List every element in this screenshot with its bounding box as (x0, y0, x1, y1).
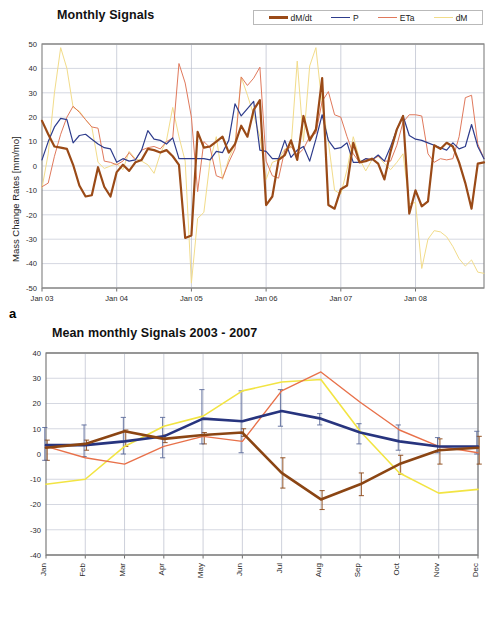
legend-label-p: P (353, 13, 359, 23)
y-tick-label: 20 (33, 399, 41, 408)
x-tick-label: Jan 06 (255, 294, 278, 303)
x-tick-label: Nov (432, 563, 441, 577)
y-tick-label: 50 (29, 40, 37, 49)
series-line-eta (42, 64, 484, 192)
x-tick-label: Jan 03 (31, 294, 54, 303)
panel-a-y-axis-label: Mass Change Rates [mm/mo] (10, 136, 21, 262)
x-tick-label: Jun (235, 563, 244, 576)
y-tick-label: 40 (29, 64, 37, 73)
x-tick-label: Sep (353, 562, 362, 577)
y-tick-label: -20 (26, 211, 37, 220)
legend-label-eta: ETa (400, 13, 415, 23)
y-tick-label: 0 (33, 162, 37, 171)
x-tick-label: Jul (275, 563, 284, 573)
y-tick-label: -40 (30, 551, 41, 560)
legend-label-dmdt: dM/dt (291, 13, 312, 23)
x-tick-label: Jan 04 (105, 294, 128, 303)
y-tick-label: 0 (37, 450, 41, 459)
legend-item-p: P (321, 13, 368, 23)
y-tick-label: 40 (33, 349, 41, 358)
y-tick-label: -30 (26, 235, 37, 244)
x-tick-label: Jan (39, 563, 48, 576)
x-tick-label: Oct (392, 562, 401, 575)
y-tick-label: 10 (29, 137, 37, 146)
y-tick-label: 30 (33, 374, 41, 383)
legend-swatch-dmdt (269, 16, 288, 19)
figure-container: Monthly Signals dM/dt P ETa dM Mass Chan… (0, 0, 490, 626)
panel-a-letter: a (9, 306, 16, 321)
panel-a-legend: dM/dt P ETa dM (253, 10, 483, 25)
x-tick-label: Mar (118, 563, 127, 577)
panel-a-monthly-signals: Monthly Signals dM/dt P ETa dM Mass Chan… (0, 0, 490, 320)
x-tick-label: Aug (314, 563, 323, 577)
legend-item-eta: ETa (368, 13, 424, 23)
x-tick-label: Jan 05 (180, 294, 203, 303)
y-tick-label: -40 (26, 259, 37, 268)
panel-a-title: Monthly Signals (57, 8, 154, 22)
panel-b-title: Mean monthly Signals 2003 - 2007 (52, 326, 257, 340)
x-tick-label: Jan 07 (329, 294, 352, 303)
x-tick-label: Dec (471, 563, 480, 577)
x-tick-label: Apr (157, 563, 166, 576)
y-tick-label: 30 (29, 89, 37, 98)
y-tick-label: -10 (26, 186, 37, 195)
panel-b-plot: -40-30-20-10010203040JanFebMarAprMayJunJ… (0, 320, 490, 626)
x-tick-label: Feb (78, 562, 87, 576)
legend-swatch-eta (378, 17, 397, 18)
y-tick-label: 20 (29, 113, 37, 122)
y-tick-label: -50 (26, 284, 37, 293)
y-tick-label: -30 (30, 526, 41, 535)
y-tick-label: 10 (33, 425, 41, 434)
legend-swatch-p (331, 17, 350, 18)
y-tick-label: -20 (30, 500, 41, 509)
legend-item-dmdt: dM/dt (259, 13, 321, 23)
legend-swatch-dm (434, 17, 453, 18)
x-tick-label: Jan 08 (404, 294, 427, 303)
legend-label-dm: dM (456, 13, 468, 23)
legend-item-dm: dM (424, 13, 477, 23)
x-tick-label: May (196, 563, 205, 578)
series-line-dmdt (42, 78, 484, 238)
y-tick-label: -10 (30, 475, 41, 484)
panel-a-plot: -50-40-30-20-1001020304050Jan 03Jan 04Ja… (0, 0, 490, 320)
panel-b-mean-monthly-signals: Mean monthly Signals 2003 - 2007 dM/dt P… (0, 320, 490, 626)
